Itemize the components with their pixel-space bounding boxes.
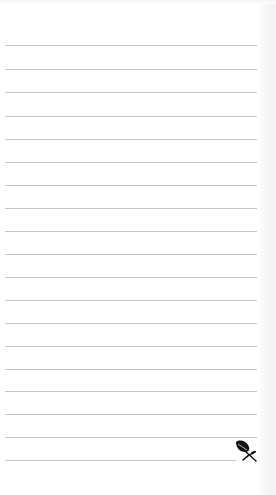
ruled-line: [5, 116, 257, 117]
ruled-line: [5, 346, 257, 347]
leaf-icon: [234, 439, 258, 463]
ruled-line: [5, 92, 257, 93]
ruled-line: [5, 139, 257, 140]
ruled-line: [5, 254, 257, 255]
ruled-line: [5, 185, 257, 186]
page-top-edge: [0, 0, 276, 4]
ruled-line: [5, 45, 257, 46]
ruled-line: [5, 231, 257, 232]
ruled-line: [5, 437, 257, 438]
ruled-line: [5, 391, 257, 392]
ruled-line: [5, 162, 257, 163]
ruled-line: [5, 369, 257, 370]
ruled-line: [5, 323, 257, 324]
ruled-line: [5, 208, 257, 209]
ruled-line: [5, 460, 236, 461]
ruled-line: [5, 69, 257, 70]
ruled-line: [5, 277, 257, 278]
ruled-notepad-page: [0, 0, 276, 495]
ruled-line: [5, 300, 257, 301]
ruled-line: [5, 414, 257, 415]
